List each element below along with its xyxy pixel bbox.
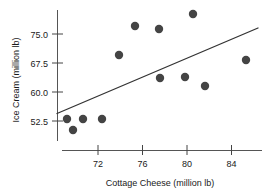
data-points (63, 10, 250, 134)
x-axis-tick-labels: 72 76 80 84 (93, 159, 237, 169)
x-axis-title: Cottage Cheese (million lb) (106, 178, 215, 188)
data-point (201, 82, 209, 90)
data-point (189, 10, 197, 18)
data-point (98, 115, 106, 123)
x-tick-label-84: 84 (226, 159, 236, 169)
y-tick-label-60: 60.0 (30, 88, 48, 98)
data-point (131, 22, 139, 30)
y-axis-tick-labels: 75.0 67.5 60.0 52.5 (30, 30, 48, 127)
data-point (115, 51, 123, 59)
data-point (156, 74, 164, 82)
y-tick-label-52-5: 52.5 (30, 117, 48, 127)
scatter-plot-figure: 75.0 67.5 60.0 52.5 72 76 80 84 (0, 0, 272, 193)
data-point (155, 25, 163, 33)
data-point (181, 73, 189, 81)
y-tick-label-75: 75.0 (30, 30, 48, 40)
trend-line (57, 28, 258, 114)
x-tick-label-76: 76 (137, 159, 147, 169)
x-tick-label-72: 72 (93, 159, 103, 169)
x-tick-label-80: 80 (182, 159, 192, 169)
plot-canvas: 75.0 67.5 60.0 52.5 72 76 80 84 (0, 0, 272, 193)
data-point (242, 56, 250, 64)
data-point (63, 115, 71, 123)
y-axis-title: Ice Cream (million lb) (11, 37, 21, 122)
y-tick-label-67-5: 67.5 (30, 59, 48, 69)
data-point (79, 115, 87, 123)
data-point (69, 126, 77, 134)
